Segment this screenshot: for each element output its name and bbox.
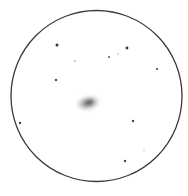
star xyxy=(124,160,126,162)
star xyxy=(143,149,145,151)
star xyxy=(117,53,119,55)
galaxy xyxy=(74,92,103,113)
eyepiece-sketch xyxy=(0,0,188,196)
star xyxy=(126,47,129,50)
star xyxy=(56,44,59,47)
star xyxy=(74,60,76,62)
star xyxy=(108,56,110,58)
star xyxy=(156,68,158,70)
star xyxy=(19,122,21,124)
star xyxy=(55,79,57,81)
field-of-view xyxy=(0,0,188,196)
star xyxy=(132,120,134,122)
